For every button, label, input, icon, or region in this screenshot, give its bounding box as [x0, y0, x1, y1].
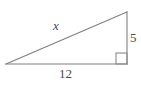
right-triangle-figure: x 12 5: [0, 0, 141, 89]
vertical-leg-length-label: 5: [130, 31, 137, 44]
base-length-label: 12: [59, 67, 72, 80]
triangle-hypotenuse-line: [6, 12, 127, 64]
hypotenuse-label: x: [53, 19, 59, 32]
right-angle-square-icon: [116, 53, 127, 64]
